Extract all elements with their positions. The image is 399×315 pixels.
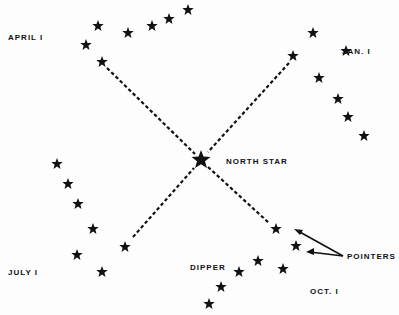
star-icon — [287, 50, 298, 61]
star-icon — [277, 263, 288, 274]
label-april: APRIL I — [8, 33, 43, 42]
star-icon — [51, 158, 62, 169]
label-jan: JAN. I — [342, 47, 371, 56]
star-icon — [332, 93, 343, 104]
label-july: JULY I — [8, 268, 38, 277]
star-icon — [313, 72, 324, 83]
label-dipper: DIPPER — [190, 263, 226, 272]
label-pointers: POINTERS — [347, 252, 396, 261]
label-oct: OCT. I — [310, 287, 339, 296]
pointer-arrows — [294, 229, 343, 256]
dashed-line-oct — [208, 167, 269, 223]
star-icon — [270, 223, 281, 234]
star-icon — [62, 178, 73, 189]
star-icon — [122, 27, 133, 38]
label-north-star: NORTH STAR — [226, 157, 288, 166]
star-icon — [252, 255, 263, 266]
star-icon — [96, 56, 107, 67]
dashed-line-jan — [208, 63, 289, 152]
star-icon — [80, 39, 91, 50]
star-icon — [358, 130, 369, 141]
star-icon — [203, 298, 214, 309]
star-icon — [182, 4, 193, 15]
star-icon — [146, 20, 157, 31]
star-icon — [119, 241, 130, 252]
dashed-pointer-lines — [107, 63, 289, 237]
dashed-line-april — [107, 68, 195, 154]
star-icon — [87, 223, 98, 234]
star-icon — [96, 266, 107, 277]
dashed-line-july — [133, 168, 194, 237]
star-icon — [342, 111, 353, 122]
star-icon — [307, 27, 318, 38]
star-icon — [215, 281, 226, 292]
star-icon — [163, 13, 174, 24]
star-icon — [72, 198, 83, 209]
star-icon — [71, 249, 82, 260]
star-icon — [233, 266, 244, 277]
north-star-diagram: APRIL I JAN. I NORTH STAR JULY I DIPPER … — [0, 0, 399, 315]
star-icon — [92, 20, 103, 31]
star-icon — [290, 240, 301, 251]
